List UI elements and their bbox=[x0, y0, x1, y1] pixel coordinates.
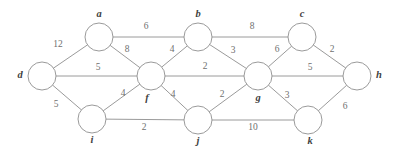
edge-weight-d-a: 12 bbox=[53, 39, 63, 49]
graph-edge-c-g bbox=[268, 46, 291, 66]
edge-weight-f-g: 2 bbox=[203, 61, 208, 71]
graph-node-label-j: j bbox=[195, 135, 200, 146]
graph-edge-b-f bbox=[162, 46, 187, 67]
edge-weight-i-f: 4 bbox=[121, 88, 126, 98]
graph-node-label-a: a bbox=[96, 8, 101, 19]
graph-edge-i-j bbox=[106, 119, 184, 120]
graph-node-label-b: b bbox=[195, 8, 200, 19]
graph-node-label-d: d bbox=[17, 69, 23, 80]
edge-weight-b-g: 3 bbox=[231, 45, 236, 55]
edge-weight-b-c: 8 bbox=[250, 21, 255, 31]
graph-node-i[interactable] bbox=[78, 105, 106, 133]
edge-weight-k-h: 6 bbox=[343, 101, 348, 111]
graph-node-f[interactable] bbox=[137, 62, 165, 90]
nodes-layer bbox=[28, 23, 371, 134]
edge-weight-a-f: 8 bbox=[125, 44, 130, 54]
edge-weight-j-g: 2 bbox=[220, 89, 225, 99]
graph-node-label-h: h bbox=[376, 69, 382, 80]
edge-weight-d-i: 5 bbox=[54, 99, 59, 109]
graph-edge-g-k bbox=[269, 85, 298, 111]
edge-weight-c-g: 6 bbox=[275, 44, 280, 54]
graph-node-h[interactable] bbox=[343, 62, 371, 90]
graph-canvas: 126884362525544232106 abcdfghijk bbox=[0, 0, 397, 155]
graph-node-a[interactable] bbox=[85, 23, 113, 51]
graph-node-d[interactable] bbox=[28, 62, 56, 90]
graph-node-label-f: f bbox=[145, 92, 150, 103]
graph-edge-b-g bbox=[210, 45, 247, 69]
graph-node-label-i: i bbox=[91, 134, 94, 145]
graph-node-k[interactable] bbox=[294, 106, 322, 134]
graph-node-label-g: g bbox=[254, 92, 260, 103]
edge-weight-b-f: 4 bbox=[170, 44, 175, 54]
edge-weight-f-j: 4 bbox=[171, 89, 176, 99]
edge-weight-g-h: 5 bbox=[308, 62, 313, 72]
graph-edge-j-g bbox=[209, 84, 246, 111]
edge-weight-d-f: 5 bbox=[96, 62, 101, 72]
graph-node-g[interactable] bbox=[244, 62, 272, 90]
graph-node-c[interactable] bbox=[288, 23, 316, 51]
edge-weight-a-b: 6 bbox=[144, 21, 149, 31]
graph-node-j[interactable] bbox=[184, 106, 212, 134]
edge-weight-i-j: 2 bbox=[142, 122, 147, 132]
graph-node-label-c: c bbox=[300, 8, 305, 19]
edge-weight-g-k: 3 bbox=[285, 90, 290, 100]
edge-weight-c-h: 2 bbox=[330, 44, 335, 54]
graph-node-label-k: k bbox=[307, 135, 313, 146]
graph-figure: 126884362525544232106 abcdfghijk bbox=[0, 0, 397, 155]
edge-weight-j-k: 10 bbox=[248, 122, 258, 132]
graph-node-b[interactable] bbox=[184, 23, 212, 51]
